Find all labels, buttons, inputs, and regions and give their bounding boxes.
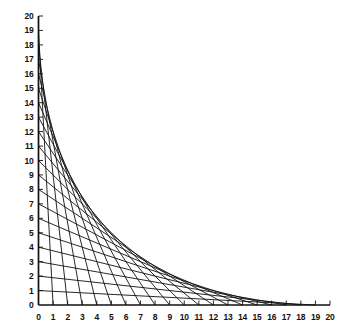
y-axis-tick-label: 9 bbox=[29, 171, 34, 180]
y-axis-tick-label: 8 bbox=[29, 185, 34, 194]
segment-k19 bbox=[39, 30, 54, 305]
x-axis-tick-label: 16 bbox=[267, 313, 276, 322]
x-axis-tick-label: 2 bbox=[65, 313, 70, 322]
x-axis-tick-label: 17 bbox=[282, 313, 291, 322]
x-axis-tick-label: 9 bbox=[167, 313, 172, 322]
y-axis-tick-label: 6 bbox=[29, 214, 34, 223]
x-axis-tick-label: 18 bbox=[296, 313, 305, 322]
y-axis-tick-label: 18 bbox=[24, 41, 33, 50]
y-axis-tick-label: 3 bbox=[29, 257, 34, 266]
x-axis-tick-label: 8 bbox=[153, 313, 158, 322]
plot-area bbox=[0, 0, 342, 334]
y-axis-tick-label: 20 bbox=[24, 12, 33, 21]
x-axis-tick-label: 20 bbox=[325, 313, 334, 322]
y-axis-tick-label: 14 bbox=[24, 98, 33, 107]
x-axis-tick-label: 0 bbox=[36, 313, 41, 322]
y-axis-tick-label: 19 bbox=[24, 26, 33, 35]
segment-k17 bbox=[39, 59, 83, 305]
y-axis-tick-label: 1 bbox=[29, 286, 34, 295]
y-axis-tick-label: 16 bbox=[24, 70, 33, 79]
y-axis-tick-label: 0 bbox=[29, 301, 34, 310]
x-axis-tick-label: 5 bbox=[109, 313, 114, 322]
y-axis-tick-label: 5 bbox=[29, 229, 34, 238]
x-axis-tick-label: 10 bbox=[180, 313, 189, 322]
y-axis-tick-label: 10 bbox=[24, 156, 33, 165]
y-axis-tick-label: 7 bbox=[29, 200, 34, 209]
y-axis-tick-label: 12 bbox=[24, 127, 33, 136]
x-axis-tick-label: 13 bbox=[223, 313, 232, 322]
x-axis-tick-label: 14 bbox=[238, 313, 247, 322]
x-axis-tick-label: 1 bbox=[51, 313, 56, 322]
x-axis-tick-label: 4 bbox=[95, 313, 100, 322]
y-axis-tick-label: 15 bbox=[24, 84, 33, 93]
y-axis-tick-label: 11 bbox=[25, 142, 34, 151]
x-axis-tick-label: 19 bbox=[311, 313, 320, 322]
x-axis-tick-label: 6 bbox=[124, 313, 129, 322]
x-axis-tick-label: 11 bbox=[195, 313, 204, 322]
y-axis-tick-label: 13 bbox=[24, 113, 33, 122]
x-axis-tick-label: 12 bbox=[209, 313, 218, 322]
x-axis-tick-label: 15 bbox=[253, 313, 262, 322]
figure-canvas: 01234567891011121314151617181920 0123456… bbox=[0, 0, 342, 334]
y-axis-tick-label: 2 bbox=[29, 272, 34, 281]
x-axis-tick-label: 3 bbox=[80, 313, 85, 322]
y-axis-tick-label: 17 bbox=[24, 55, 33, 64]
x-axis-tick-label: 7 bbox=[138, 313, 143, 322]
y-axis-tick-label: 4 bbox=[29, 243, 34, 252]
